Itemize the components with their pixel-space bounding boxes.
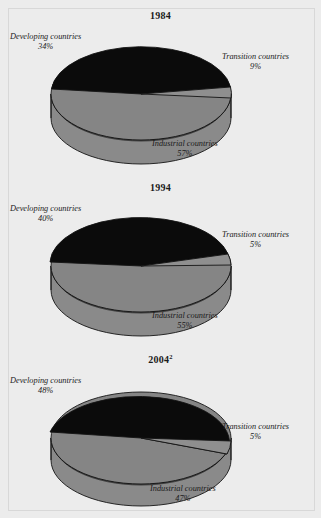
chart-1984: 1984 Developing countries 34% Transition… [0, 0, 321, 173]
chart-2004: 20042 Developing countries 48% Transitio… [0, 344, 321, 517]
pie-chart-figure: 1984 Developing countries 34% Transition… [0, 0, 321, 518]
label-transition-2004: Transition countries 5% [222, 422, 289, 442]
label-industrial-1984: Industrial countries 57% [152, 139, 218, 159]
pie-slice-developing [52, 47, 231, 94]
label-transition-1994: Transition countries 5% [222, 230, 289, 250]
label-transition-1984: Transition countries 9% [222, 52, 289, 72]
label-industrial-2004: Industrial countries 47% [150, 484, 216, 504]
label-industrial-1994: Industrial countries 55% [152, 311, 218, 331]
label-developing-2004: Developing countries 48% [10, 376, 81, 396]
label-developing-1994: Developing countries 40% [10, 204, 81, 224]
chart-1994: 1994 Developing countries 40% Transition… [0, 172, 321, 345]
label-developing-1984: Developing countries 34% [10, 32, 81, 52]
